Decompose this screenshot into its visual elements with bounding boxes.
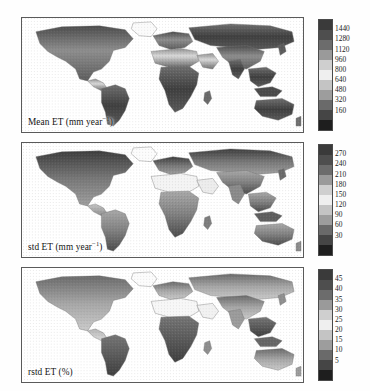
colorbar-segment — [319, 120, 332, 130]
colorbar-tick-label: 35 — [335, 296, 342, 303]
colorbar-tick-label: 30 — [335, 232, 342, 239]
colorbar-ticks-rstd-et: 45403530252015105 — [335, 269, 368, 381]
map-frame-mean-et: Mean ET (mm year−1) — [21, 17, 304, 133]
colorbar-segment — [319, 360, 332, 370]
panel-label-rstd-et: rstd ET (%) — [28, 367, 73, 377]
colorbar-segment — [319, 185, 332, 195]
colorbar-segment — [319, 145, 332, 155]
colorbar-std-et: 270240210180150120906030 — [318, 144, 368, 258]
map-canvas-mean-et — [22, 18, 303, 132]
colorbar-tick-label: 800 — [335, 66, 346, 73]
colorbar-segment — [319, 225, 332, 235]
colorbar-segment — [319, 370, 332, 380]
colorbar-segment — [319, 90, 332, 100]
panel-label-text: rstd ET (%) — [28, 367, 73, 377]
colorbar-segment — [319, 50, 332, 60]
colorbar-segment — [319, 110, 332, 120]
panel-label-text: Mean ET (mm year — [28, 117, 103, 127]
colorbar-mean-et: 144012801120960800640480320160 — [318, 19, 368, 133]
colorbar-segment — [319, 245, 332, 255]
colorbar-segment — [319, 60, 332, 70]
colorbar-tick-label: 20 — [335, 326, 342, 333]
colorbar-segment — [319, 70, 332, 80]
panel-label-mean-et: Mean ET (mm year−1) — [28, 117, 113, 127]
colorbar-segment — [319, 270, 332, 280]
colorbar-segment — [319, 300, 332, 310]
colorbar-tick-label: 5 — [335, 357, 339, 364]
colorbar-segment — [319, 155, 332, 165]
colorbar-segment — [319, 195, 332, 205]
colorbar-segment — [319, 320, 332, 330]
colorbar-tick-label: 30 — [335, 306, 342, 313]
colorbar-tick-label: 1280 — [335, 35, 350, 42]
colorbar-gradient-std-et — [318, 144, 333, 256]
colorbar-segment — [319, 330, 332, 340]
panel-label-tail: ) — [110, 117, 113, 127]
colorbar-segment — [319, 235, 332, 245]
map-frame-std-et: std ET (mm year−1) — [21, 142, 304, 258]
colorbar-segment — [319, 215, 332, 225]
colorbar-ticks-mean-et: 144012801120960800640480320160 — [335, 19, 368, 131]
colorbar-tick-label: 40 — [335, 285, 342, 292]
colorbar-segment — [319, 30, 332, 40]
panel-label-exponent: −1 — [103, 115, 110, 122]
colorbar-tick-label: 90 — [335, 211, 342, 218]
colorbar-tick-label: 160 — [335, 107, 346, 114]
colorbar-tick-label: 15 — [335, 336, 342, 343]
colorbar-tick-label: 480 — [335, 86, 346, 93]
map-frame-rstd-et: rstd ET (%) — [21, 267, 304, 383]
colorbar-tick-label: 640 — [335, 76, 346, 83]
colorbar-tick-label: 10 — [335, 346, 342, 353]
colorbar-tick-label: 120 — [335, 201, 346, 208]
colorbar-tick-label: 60 — [335, 221, 342, 228]
colorbar-segment — [319, 310, 332, 320]
colorbar-segment — [319, 290, 332, 300]
colorbar-gradient-mean-et — [318, 19, 333, 131]
colorbar-segment — [319, 40, 332, 50]
colorbar-tick-label: 25 — [335, 316, 342, 323]
colorbar-segment — [319, 100, 332, 110]
panel-mean-et: Mean ET (mm year−1) 14401280112096080064… — [0, 17, 370, 137]
colorbar-ticks-std-et: 270240210180150120906030 — [335, 144, 368, 256]
colorbar-segment — [319, 280, 332, 290]
panel-std-et: std ET (mm year−1) 270240210180150120906… — [0, 142, 370, 262]
map-canvas-rstd-et — [22, 268, 303, 382]
colorbar-tick-label: 240 — [335, 160, 346, 167]
colorbar-segment — [319, 20, 332, 30]
panel-label-text: std ET (mm year — [28, 242, 92, 252]
colorbar-segment — [319, 340, 332, 350]
colorbar-segment — [319, 175, 332, 185]
colorbar-segment — [319, 350, 332, 360]
figure-root: Mean ET (mm year−1) 14401280112096080064… — [0, 0, 370, 391]
colorbar-tick-label: 45 — [335, 275, 342, 282]
colorbar-segment — [319, 80, 332, 90]
colorbar-tick-label: 320 — [335, 96, 346, 103]
colorbar-segment — [319, 165, 332, 175]
colorbar-rstd-et: 45403530252015105 — [318, 269, 368, 383]
colorbar-gradient-rstd-et — [318, 269, 333, 381]
panel-label-std-et: std ET (mm year−1) — [28, 242, 103, 252]
colorbar-tick-label: 960 — [335, 56, 346, 63]
colorbar-tick-label: 210 — [335, 171, 346, 178]
colorbar-tick-label: 270 — [335, 150, 346, 157]
colorbar-tick-label: 180 — [335, 181, 346, 188]
map-canvas-std-et — [22, 143, 303, 257]
colorbar-tick-label: 1440 — [335, 25, 350, 32]
colorbar-tick-label: 150 — [335, 191, 346, 198]
panel-label-tail: ) — [99, 242, 102, 252]
panel-rstd-et: rstd ET (%) 45403530252015105 — [0, 267, 370, 387]
colorbar-segment — [319, 205, 332, 215]
colorbar-tick-label: 1120 — [335, 46, 350, 53]
